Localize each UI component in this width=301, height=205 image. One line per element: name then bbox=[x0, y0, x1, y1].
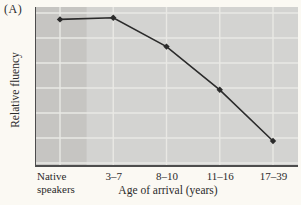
native-speakers-band bbox=[36, 7, 87, 165]
fluency-line-chart bbox=[36, 7, 298, 165]
x-tick-label: 11–16 bbox=[207, 170, 234, 182]
x-axis-title: Age of arrival (years) bbox=[118, 184, 217, 196]
plot-area bbox=[35, 7, 298, 167]
x-tick-label: 8–10 bbox=[156, 170, 178, 182]
x-tick-label: Native speakers bbox=[37, 170, 75, 196]
data-point-1 bbox=[110, 15, 116, 21]
x-tick-label: 17–39 bbox=[260, 170, 288, 182]
y-axis-label: Relative fluency bbox=[9, 44, 21, 136]
panel-label: (A) bbox=[4, 2, 22, 17]
figure-panel: (A) Relative fluency Native speakers3–78… bbox=[0, 0, 301, 205]
x-tick-label: 3–7 bbox=[106, 170, 123, 182]
